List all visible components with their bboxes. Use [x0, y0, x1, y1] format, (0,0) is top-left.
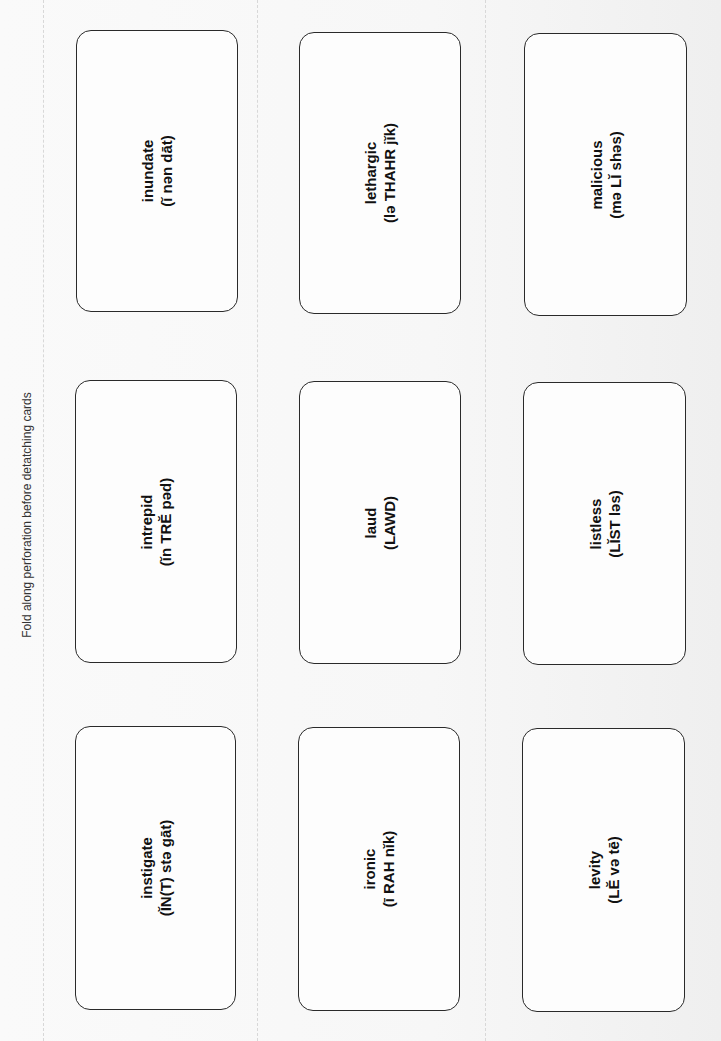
flashcard-sheet: Fold along perforation before detatching…: [0, 0, 721, 1041]
card-word: listless: [586, 490, 605, 558]
card-word: instigate: [137, 820, 156, 917]
flashcard-inundate: inundate (ĭ nən dāt): [76, 30, 238, 312]
card-text: listless (LĬST ləs): [586, 490, 624, 558]
perforation-line-left: [43, 0, 44, 1041]
flashcard-malicious: malicious (mə LĬ shəs): [524, 33, 687, 316]
fold-instruction: Fold along perforation before detatching…: [20, 392, 34, 638]
card-word: inundate: [138, 135, 157, 207]
flashcard-instigate: instigate (ĬN(T) stə gāt): [75, 726, 236, 1010]
card-pronunciation: (mə LĬ shəs): [606, 131, 625, 219]
card-word: ironic: [360, 831, 379, 908]
card-pronunciation: (lə THAHR jĭk): [380, 123, 399, 223]
card-text: laud (LAWD): [361, 495, 399, 549]
flashcard-ironic: ironic (ī RAH nĭk): [298, 727, 460, 1011]
card-pronunciation: (LĔ və tē): [604, 836, 623, 904]
card-text: malicious (mə LĬ shəs): [587, 131, 625, 219]
card-text: inundate (ĭ nən dāt): [138, 135, 176, 207]
flashcard-levity: levity (LĔ və tē): [522, 728, 685, 1012]
card-pronunciation: (ĭ nən dāt): [157, 135, 176, 207]
card-pronunciation: (LAWD): [380, 495, 399, 549]
flashcard-listless: listless (LĬST ləs): [523, 382, 686, 665]
flashcard-lethargic: lethargic (lə THAHR jĭk): [299, 32, 461, 314]
card-word: intrepid: [137, 477, 156, 565]
card-word: laud: [361, 495, 380, 549]
card-text: lethargic (lə THAHR jĭk): [361, 123, 399, 223]
flashcard-laud: laud (LAWD): [299, 381, 461, 664]
perforation-line-2: [485, 0, 486, 1041]
card-pronunciation: (ĭn TRĔ pəd): [156, 477, 175, 565]
card-text: instigate (ĬN(T) stə gāt): [137, 820, 175, 917]
card-word: malicious: [587, 131, 606, 219]
card-text: intrepid (ĭn TRĔ pəd): [137, 477, 175, 565]
card-word: levity: [585, 836, 604, 904]
flashcard-intrepid: intrepid (ĭn TRĔ pəd): [75, 380, 237, 663]
card-text: ironic (ī RAH nĭk): [360, 831, 398, 908]
card-pronunciation: (LĬST ləs): [605, 490, 624, 558]
card-pronunciation: (ĬN(T) stə gāt): [156, 820, 175, 917]
perforation-line-1: [257, 0, 258, 1041]
card-word: lethargic: [361, 123, 380, 223]
card-text: levity (LĔ və tē): [585, 836, 623, 904]
card-pronunciation: (ī RAH nĭk): [379, 831, 398, 908]
